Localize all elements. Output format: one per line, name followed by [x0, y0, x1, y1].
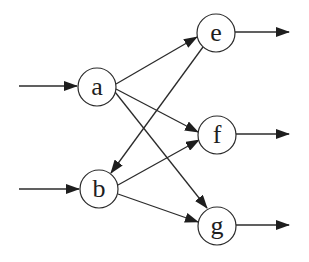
node-label-e: e — [210, 18, 222, 47]
node-a: a — [78, 68, 116, 106]
node-label-b: b — [93, 174, 106, 203]
nodes-layer: abefg — [78, 14, 236, 245]
node-label-f: f — [213, 120, 222, 149]
edges-layer — [19, 32, 289, 225]
edge-a-to-g — [115, 92, 207, 208]
node-label-a: a — [91, 72, 103, 101]
node-label-g: g — [211, 211, 224, 240]
node-e: e — [197, 14, 235, 52]
node-f: f — [198, 116, 236, 154]
node-b: b — [80, 170, 118, 208]
directed-graph-diagram: abefg — [0, 0, 309, 262]
node-g: g — [198, 207, 236, 245]
edge-a-to-e — [116, 37, 197, 84]
edge-b-to-g — [118, 194, 198, 222]
edge-e-to-b — [111, 47, 203, 173]
